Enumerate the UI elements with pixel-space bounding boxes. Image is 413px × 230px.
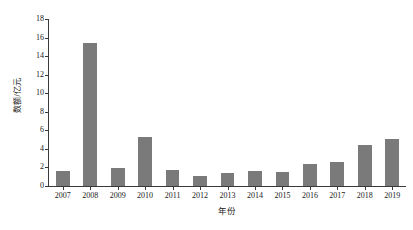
y-axis-title: 数额/亿元 bbox=[9, 0, 23, 190]
bar bbox=[56, 171, 70, 186]
y-tick-label: 0 bbox=[40, 182, 44, 190]
x-tick-label: 2009 bbox=[110, 192, 126, 200]
x-tick-mark bbox=[118, 186, 119, 190]
x-tick-label: 2019 bbox=[384, 192, 400, 200]
x-tick-label: 2018 bbox=[357, 192, 373, 200]
y-tick-label: 8 bbox=[40, 108, 44, 116]
x-tick-mark bbox=[145, 186, 146, 190]
bar bbox=[111, 168, 125, 186]
bar-chart-figure: 数额/亿元 024681012141618 200720082009201020… bbox=[0, 0, 413, 230]
x-tick-label: 2012 bbox=[192, 192, 208, 200]
x-tick-mark bbox=[365, 186, 366, 190]
x-tick-label: 2016 bbox=[302, 192, 318, 200]
x-tick-label: 2015 bbox=[274, 192, 290, 200]
x-tick-mark bbox=[310, 186, 311, 190]
x-tick-label: 2014 bbox=[247, 192, 263, 200]
y-tick-label: 14 bbox=[36, 52, 44, 60]
y-tick-label: 16 bbox=[36, 34, 44, 42]
plot-area: 024681012141618 200720082009201020112012… bbox=[48, 19, 406, 187]
x-tick-label: 2010 bbox=[137, 192, 153, 200]
bar bbox=[276, 172, 290, 186]
bar bbox=[221, 173, 235, 186]
y-tick-label: 18 bbox=[36, 15, 44, 23]
x-tick-mark bbox=[282, 186, 283, 190]
bar bbox=[166, 170, 180, 186]
x-tick-mark bbox=[228, 186, 229, 190]
bar bbox=[358, 145, 372, 186]
bar bbox=[138, 137, 152, 186]
bar bbox=[83, 43, 97, 186]
x-tick-mark bbox=[173, 186, 174, 190]
x-tick-label: 2008 bbox=[82, 192, 98, 200]
y-axis-title-text: 数额/亿元 bbox=[11, 78, 22, 112]
x-tick-mark bbox=[90, 186, 91, 190]
x-tick-label: 2007 bbox=[55, 192, 71, 200]
bar bbox=[193, 176, 207, 186]
x-tick-mark bbox=[200, 186, 201, 190]
x-tick-label: 2017 bbox=[329, 192, 345, 200]
x-axis-title: 年份 bbox=[48, 204, 405, 216]
y-tick-label: 10 bbox=[36, 89, 44, 97]
x-tick-label: 2011 bbox=[165, 192, 181, 200]
bar-series bbox=[49, 19, 406, 186]
y-tick-label: 2 bbox=[40, 163, 44, 171]
bar bbox=[330, 162, 344, 186]
x-tick-mark bbox=[255, 186, 256, 190]
bar bbox=[385, 139, 399, 186]
x-tick-mark bbox=[392, 186, 393, 190]
y-tick-label: 6 bbox=[40, 126, 44, 134]
bar bbox=[303, 164, 317, 186]
y-tick-label: 4 bbox=[40, 145, 44, 153]
bar bbox=[248, 171, 262, 186]
y-tick-mark bbox=[45, 186, 49, 187]
x-tick-label: 2013 bbox=[220, 192, 236, 200]
y-tick-label: 12 bbox=[36, 71, 44, 79]
x-tick-mark bbox=[337, 186, 338, 190]
x-tick-mark bbox=[63, 186, 64, 190]
